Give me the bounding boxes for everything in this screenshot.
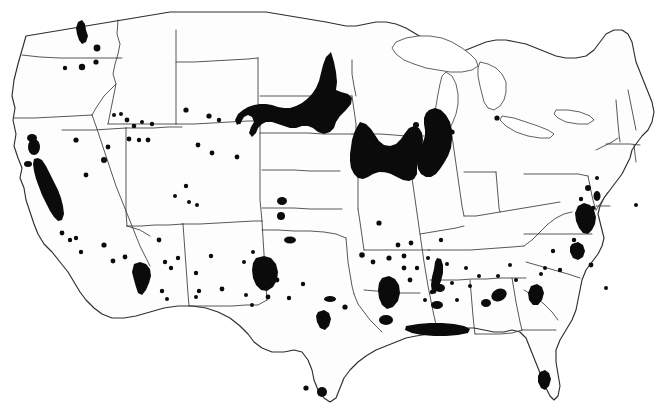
dot (415, 266, 419, 270)
dot (303, 385, 308, 390)
dot (409, 241, 414, 246)
dot (439, 238, 443, 242)
dot (150, 122, 154, 126)
dot (572, 238, 576, 242)
blob-louisiana-mid (435, 284, 445, 292)
dot (386, 255, 391, 260)
dot (146, 138, 151, 143)
dot (173, 194, 177, 198)
dot (396, 243, 401, 248)
dot (194, 295, 198, 299)
dot (209, 254, 213, 258)
dot (101, 157, 107, 163)
dot (301, 282, 305, 286)
dot (494, 115, 499, 120)
blob-west-alabama (481, 299, 491, 307)
dot (160, 289, 164, 293)
dot (449, 129, 454, 134)
dot (217, 118, 221, 122)
dot (342, 304, 347, 309)
blob-southeast-arkansas (379, 315, 393, 325)
blob-south-texas-coast (317, 387, 327, 397)
dot (558, 268, 562, 272)
dot (477, 274, 481, 278)
blob-delmarva (594, 191, 601, 201)
dot (165, 297, 169, 301)
dot (176, 256, 180, 260)
dot (331, 297, 335, 301)
dot (244, 293, 248, 297)
blob-oklahoma-panhandle (277, 212, 285, 220)
dot (197, 289, 201, 293)
dot (376, 220, 381, 225)
dot (73, 137, 78, 142)
dot (119, 112, 123, 116)
blob-louisiana-central (431, 301, 443, 309)
dot (450, 281, 454, 285)
dot (111, 259, 116, 264)
dot (106, 145, 111, 150)
dot (79, 64, 85, 70)
dot (496, 274, 500, 278)
dot (589, 263, 594, 268)
dot (125, 118, 130, 123)
blob-kansas-south (277, 197, 287, 205)
dot (581, 213, 585, 217)
dot (408, 278, 413, 283)
dot (423, 298, 427, 302)
dot (132, 124, 137, 129)
dot (371, 260, 376, 265)
dot (112, 113, 116, 117)
dot (137, 138, 141, 142)
dot (60, 231, 65, 236)
dot (413, 122, 419, 128)
dot (402, 266, 407, 271)
dot (237, 120, 241, 124)
dot (94, 45, 101, 52)
dot (430, 290, 434, 294)
dot (195, 203, 199, 207)
dot (101, 242, 106, 247)
dot (74, 236, 78, 240)
dot (63, 66, 67, 70)
blob-north-texas-panhandle (284, 237, 296, 244)
dot (514, 278, 518, 282)
dot (157, 238, 162, 243)
dot (220, 287, 225, 292)
dot (604, 286, 608, 290)
dot (579, 197, 583, 201)
dot (543, 266, 547, 270)
dot (588, 220, 592, 224)
dot (445, 262, 449, 266)
dot (551, 249, 555, 253)
distribution-map-figure (0, 0, 665, 416)
dot (402, 254, 407, 259)
dot (163, 260, 167, 264)
dot (210, 151, 215, 156)
dot (426, 256, 430, 260)
dot (194, 271, 198, 275)
dot (206, 113, 211, 118)
dot (287, 296, 291, 300)
dot (275, 278, 280, 283)
dot (251, 250, 255, 254)
dot (508, 263, 512, 267)
border-ct-ri (634, 145, 636, 162)
dot (84, 173, 89, 178)
blob-nor-cal-upper (27, 134, 37, 142)
dot (634, 203, 638, 207)
dot (79, 250, 83, 254)
dot (196, 143, 201, 148)
blob-bay-area (24, 161, 32, 167)
dot (187, 200, 191, 204)
dot (140, 120, 144, 124)
dot (455, 298, 459, 302)
dot (183, 107, 188, 112)
dot (127, 137, 132, 142)
dot (242, 260, 246, 264)
dot (123, 255, 128, 260)
dot (235, 155, 240, 160)
dot (359, 252, 365, 258)
dot (468, 284, 472, 288)
dot (464, 266, 468, 270)
